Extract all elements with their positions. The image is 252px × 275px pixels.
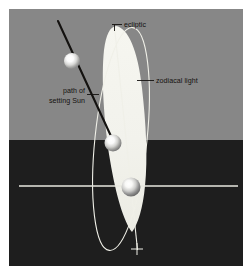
sun-horizon (105, 135, 122, 152)
sun-upper (64, 53, 80, 69)
sun-lower (122, 178, 141, 197)
label-path-of-setting-sun-line1: path of (63, 87, 85, 95)
zodiacal-light-diagram: ecliptic zodiacal light path of setting … (0, 0, 252, 275)
label-zodiacal-light: zodiacal light (156, 77, 198, 85)
label-path-of-setting-sun-line2: setting Sun (49, 97, 85, 105)
label-ecliptic: ecliptic (124, 21, 146, 29)
figure-root: ecliptic zodiacal light path of setting … (0, 0, 252, 275)
